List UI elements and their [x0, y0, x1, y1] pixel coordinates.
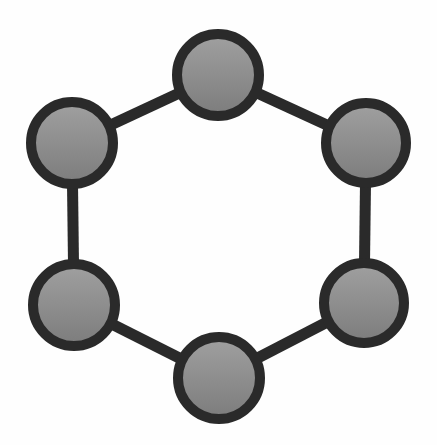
graph-node-upper-right[interactable]	[326, 103, 406, 183]
node-circle-upper-right	[326, 103, 406, 183]
graph-node-lower-right[interactable]	[324, 263, 404, 343]
graph-node-top[interactable]	[177, 34, 259, 116]
graph-node-upper-left[interactable]	[31, 102, 113, 184]
graph-node-bottom[interactable]	[178, 337, 260, 419]
node-circle-lower-left	[33, 264, 115, 346]
node-circle-lower-right	[324, 263, 404, 343]
graph-node-lower-left[interactable]	[33, 264, 115, 346]
node-circle-bottom	[178, 337, 260, 419]
node-circle-top	[177, 34, 259, 116]
node-circle-upper-left	[31, 102, 113, 184]
diagram-canvas	[0, 0, 437, 445]
hexagonal-ring-graph	[0, 0, 437, 445]
